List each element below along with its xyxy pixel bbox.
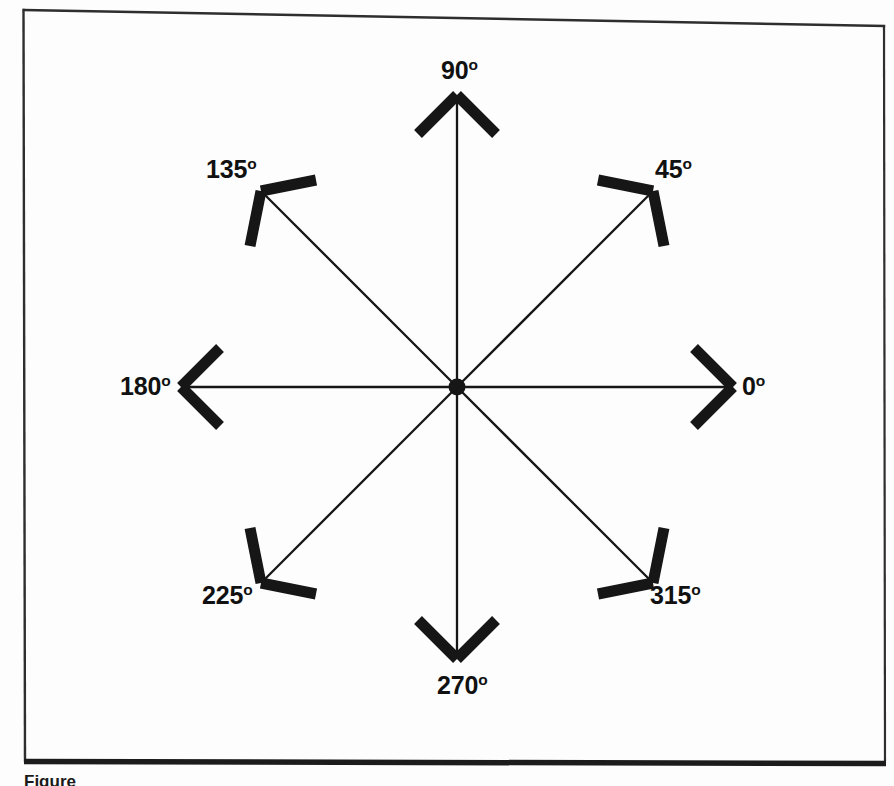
ray-label-90: 90o xyxy=(441,58,478,83)
ray-line-45 xyxy=(457,191,653,387)
ray-line-135 xyxy=(261,191,457,387)
ray-label-0: 0o xyxy=(742,374,765,399)
ray-label-315: 315o xyxy=(650,583,700,608)
figure-caption: Figure xyxy=(24,772,76,786)
origin-point xyxy=(449,379,466,396)
ray-line-225 xyxy=(261,387,457,583)
ray-label-135: 135o xyxy=(206,157,256,182)
figure-frame-container: 0o 45o 90o 135o 180o 225o 270o 315o Figu… xyxy=(0,0,894,786)
ray-line-315 xyxy=(457,387,653,583)
ray-label-270: 270o xyxy=(437,673,487,698)
ray-label-180: 180o xyxy=(120,374,170,399)
ray-label-225: 225o xyxy=(202,583,252,608)
ray-label-45: 45o xyxy=(655,157,692,182)
figure-page: 0o 45o 90o 135o 180o 225o 270o 315o Figu… xyxy=(0,0,894,786)
